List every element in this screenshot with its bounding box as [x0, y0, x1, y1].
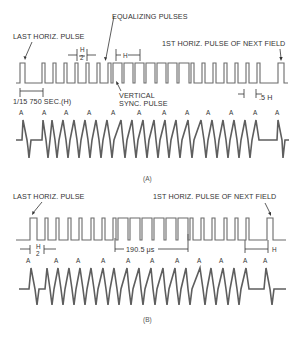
label-h-half-den-a: 2: [80, 54, 84, 61]
label-last-horiz-pulse-a: LAST HORIZ. PULSE: [13, 32, 85, 41]
svg-text:A: A: [219, 257, 224, 264]
peak-labels-b: A A A A A A A A A A A: [26, 257, 268, 264]
label-h-half-num-a: H: [80, 46, 85, 53]
svg-text:A: A: [229, 109, 234, 116]
svg-text:A: A: [162, 109, 167, 116]
svg-text:A: A: [275, 109, 280, 116]
svg-text:A: A: [243, 257, 248, 264]
label-serration-interval: 190.5 μs: [126, 245, 155, 254]
label-h-half-num-b: H: [36, 243, 41, 250]
svg-text:A: A: [101, 257, 106, 264]
svg-text:A: A: [175, 257, 180, 264]
svg-text:A: A: [111, 109, 116, 116]
annotation-lines-a: [20, 16, 283, 98]
label-first-horiz-pulse-b: 1ST HORIZ. PULSE OF NEXT FIELD: [153, 192, 276, 201]
svg-text:A: A: [42, 109, 47, 116]
arrow-icon: [104, 57, 107, 61]
label-first-horiz-pulse-a: 1ST HORIZ. PULSE OF NEXT FIELD: [162, 39, 285, 48]
pulse-train-b: [16, 218, 286, 240]
svg-text:A: A: [64, 109, 69, 116]
pulse-train-a: [16, 63, 288, 83]
differentiated-waveform-a: [16, 120, 289, 158]
svg-text:A: A: [19, 109, 24, 116]
svg-text:A: A: [185, 109, 190, 116]
svg-text:A: A: [26, 257, 31, 264]
panel-b: LAST HORIZ. PULSE 1ST HORIZ. PULSE OF NE…: [13, 192, 286, 324]
svg-text:A: A: [87, 109, 92, 116]
label-last-horiz-pulse-b: LAST HORIZ. PULSE: [13, 192, 85, 201]
peak-labels-a: A A A A A A A A A A A A: [19, 109, 280, 116]
svg-text:A: A: [54, 257, 59, 264]
label-sync-pulse: SYNC. PULSE: [119, 99, 168, 108]
svg-text:A: A: [263, 257, 268, 264]
svg-text:A: A: [253, 109, 258, 116]
arrow-icon: [24, 56, 27, 60]
label-h-interval-b: H: [272, 246, 277, 253]
sync-pulse-diagram: LAST HORIZ. PULSE EQUALIZING PULSES 1ST …: [0, 0, 301, 337]
svg-text:A: A: [126, 257, 131, 264]
caption-a: (A): [143, 175, 152, 183]
label-line-period: 1/15 750 SEC.(H): [13, 97, 71, 106]
differentiated-waveform-b: [19, 268, 286, 305]
svg-text:A: A: [150, 257, 155, 264]
arrow-icon: [279, 57, 282, 61]
arrow-icon: [268, 212, 271, 216]
label-equalizing-pulses: EQUALIZING PULSES: [112, 12, 188, 21]
svg-text:A: A: [137, 109, 142, 116]
svg-text:A: A: [197, 257, 202, 264]
svg-text:A: A: [76, 257, 81, 264]
panel-a: LAST HORIZ. PULSE EQUALIZING PULSES 1ST …: [13, 12, 289, 183]
caption-b: (B): [143, 316, 152, 324]
label-h-interval-a: H: [123, 52, 128, 59]
diagram-canvas: LAST HORIZ. PULSE EQUALIZING PULSES 1ST …: [0, 0, 301, 337]
label-h-half-den-b: 2: [36, 250, 40, 257]
svg-text:A: A: [206, 109, 211, 116]
